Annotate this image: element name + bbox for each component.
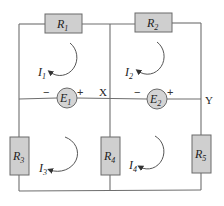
e2-plus: + bbox=[167, 86, 173, 98]
source-e1: E1 − + bbox=[43, 86, 83, 108]
resistor-r2: R2 bbox=[135, 13, 172, 32]
circuit-diagram: R1 R2 R3 R4 R5 E1 − + E2 − + X Y I1 I2 bbox=[0, 0, 224, 206]
resistor-r3: R3 bbox=[10, 137, 29, 175]
resistor-r5: R5 bbox=[192, 135, 211, 173]
wire-mid-center bbox=[77, 98, 147, 99]
e2-minus: − bbox=[134, 86, 140, 98]
e1-minus: − bbox=[43, 86, 49, 98]
resistor-r1: R1 bbox=[45, 14, 82, 33]
svg-text:I2: I2 bbox=[124, 65, 133, 81]
svg-text:I1: I1 bbox=[37, 65, 46, 81]
svg-text:I4: I4 bbox=[128, 158, 137, 174]
loop-current-i4: I4 bbox=[128, 136, 164, 174]
resistor-r4: R4 bbox=[101, 137, 120, 175]
svg-text:I3: I3 bbox=[38, 161, 47, 177]
wire-mid-left bbox=[19, 98, 57, 99]
wire-bottom bbox=[19, 190, 201, 191]
node-x-label: X bbox=[99, 86, 107, 98]
clockwise-arrow-icon bbox=[138, 42, 164, 74]
loop-current-i2: I2 bbox=[124, 42, 164, 81]
loop-current-i3: I3 bbox=[38, 137, 78, 177]
e1-plus: + bbox=[77, 86, 83, 98]
clockwise-arrow-icon bbox=[50, 137, 78, 171]
clockwise-arrow-icon bbox=[140, 136, 164, 169]
loop-current-i1: I1 bbox=[37, 43, 77, 81]
node-y-label: Y bbox=[205, 94, 213, 106]
source-e2: E2 − + bbox=[134, 86, 173, 109]
clockwise-arrow-icon bbox=[50, 43, 77, 76]
